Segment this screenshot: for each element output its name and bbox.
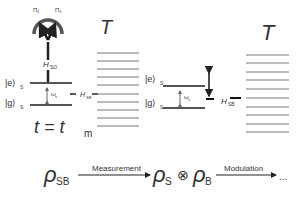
rho-s-sub: S (165, 176, 172, 187)
left-bath-levels (97, 53, 139, 126)
time-label: t = t (34, 117, 66, 137)
meter-label-0: Π₀ (55, 7, 62, 13)
right-h-sb-sub: SB (228, 101, 235, 107)
meter-label-1: Π₁ (33, 7, 39, 13)
time-sub: m (84, 128, 92, 139)
left-bath-label: T (100, 16, 114, 38)
right-bath-levels (246, 55, 289, 132)
right-omega-sub: s (188, 97, 190, 102)
rho-sb: ρ (43, 162, 57, 187)
left-omega-sub: s (55, 94, 57, 99)
h-so-sub: SO (50, 64, 57, 70)
rho-b: ρ (192, 162, 206, 187)
right-ground-label: |g⟩ (145, 98, 156, 108)
rho-b-sub: B (205, 176, 212, 187)
ellipsis: ... (279, 171, 287, 182)
modulation-label: Modulation (224, 164, 263, 173)
left-excited-sub: S (20, 84, 24, 90)
rho-s: ρ (152, 162, 166, 187)
rho-sb-sub: SB (56, 176, 70, 187)
left-excited-label: |e⟩ (5, 78, 16, 88)
h-so-label: H (43, 60, 49, 69)
left-h-sb-sub: SB (86, 95, 92, 100)
left-ground-label: |g⟩ (5, 98, 16, 108)
right-bath-label: T (261, 20, 276, 45)
tensor-product: ⊗ (177, 167, 189, 183)
diagram-canvas: Π₁ Π₀ H SO |e⟩ S |g⟩ S ω s H SB T t = t … (0, 0, 305, 199)
measurement-label: Measurement (92, 164, 142, 173)
left-ground-sub: S (20, 104, 24, 110)
right-excited-label: |e⟩ (145, 74, 156, 84)
meter-icon (34, 20, 62, 40)
right-h-sb-label: H (221, 97, 227, 106)
